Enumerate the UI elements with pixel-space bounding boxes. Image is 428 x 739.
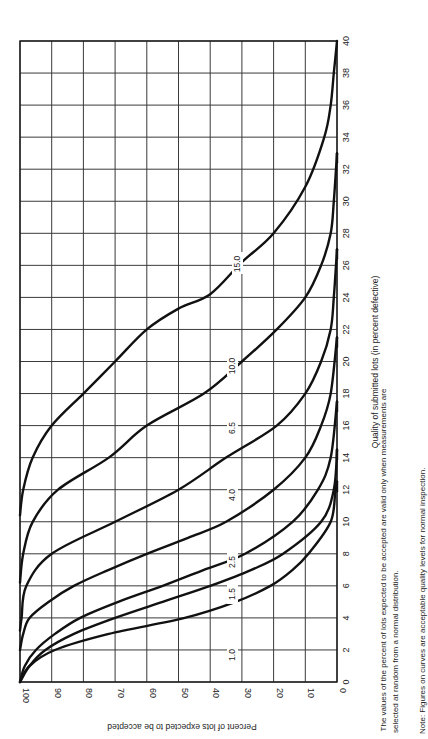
percent-tick-label: 0 [338, 688, 348, 693]
curve-label-group: 1.01.52.54.06.510.015.0 [227, 252, 243, 665]
quality-tick-label: 36 [341, 100, 351, 110]
aql-note: Note: Figures on curves are acceptable q… [418, 468, 427, 734]
curve-label-aql: 6.5 [227, 422, 237, 434]
quality-tick-label: 4 [341, 615, 351, 620]
quality-tick-label: 26 [341, 260, 351, 270]
percent-tick-label: 100 [21, 688, 31, 703]
percent-tick-label: 50 [180, 688, 190, 698]
curve-label-aql: 4.0 [227, 489, 237, 501]
percent-tick-label: 70 [116, 688, 126, 698]
quality-tick-label: 28 [341, 228, 351, 238]
quality-tick-label: 32 [341, 164, 351, 174]
curve-label-aql: 2.5 [227, 556, 237, 568]
curve-label-aql: 10.0 [227, 357, 237, 374]
percent-tick-label: 90 [53, 688, 63, 698]
quality-tick-label: 14 [341, 453, 351, 463]
quality-tick-label: 38 [341, 68, 351, 78]
quality-tick-label: 22 [341, 324, 351, 334]
percent-tick-label: 80 [84, 688, 94, 698]
validity-note-line1: The values of the percent of lots expect… [379, 388, 388, 731]
percent-tick-label: 30 [243, 688, 253, 698]
percent-tick-label: 20 [275, 688, 285, 698]
quality-tick-label: 12 [341, 485, 351, 495]
quality-tick-label: 18 [341, 389, 351, 399]
chart-grid [20, 41, 337, 682]
quality-tick-label: 16 [341, 421, 351, 431]
y-axis-label: Percent of lots expected to be accepted [107, 722, 257, 732]
quality-tick-label: 24 [341, 292, 351, 302]
percent-accepted-tick-labels: 1009080706050403020100 [21, 688, 348, 703]
quality-tick-label: 2 [341, 647, 351, 652]
quality-tick-label: 0 [341, 679, 351, 684]
percent-tick-label: 10 [306, 688, 316, 698]
quality-tick-label: 40 [341, 36, 351, 46]
quality-tick-labels: 0246810121416182022242628303234363840 [341, 36, 351, 685]
quality-tick-label: 30 [341, 196, 351, 206]
quality-tick-label: 10 [341, 517, 351, 527]
curve-label-aql: 15.0 [232, 255, 242, 272]
curve-label-aql: 1.5 [227, 588, 237, 600]
percent-tick-label: 40 [211, 688, 221, 698]
percent-tick-label: 60 [148, 688, 158, 698]
oc-curves-chart: 1.01.52.54.06.510.015.0 1009080706050403… [0, 0, 428, 739]
quality-tick-label: 20 [341, 356, 351, 366]
quality-tick-label: 6 [341, 583, 351, 588]
quality-tick-label: 8 [341, 551, 351, 556]
curve-label-aql: 1.0 [227, 649, 237, 661]
validity-note-line2: selected at random from a normal distrib… [391, 570, 400, 733]
quality-tick-label: 34 [341, 132, 351, 142]
